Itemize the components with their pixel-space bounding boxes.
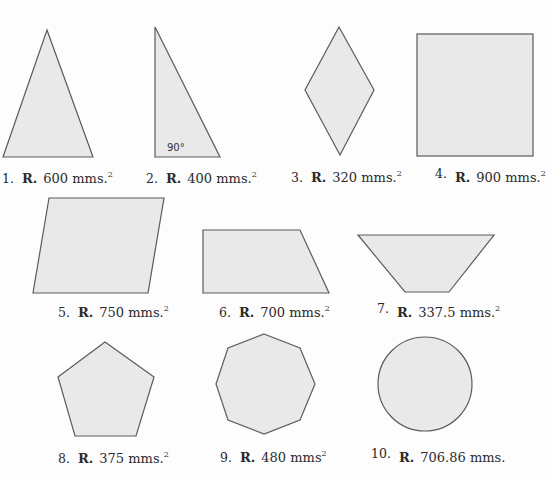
figure-number: 4. (435, 166, 447, 181)
answer-prefix: R. (78, 305, 93, 320)
answer-value: 320 (332, 170, 357, 185)
answer-unit: mms. (216, 171, 251, 186)
figure-number: 6. (219, 305, 231, 320)
figure-6-right-trapezoid (203, 230, 329, 293)
figure-number: 5. (58, 305, 70, 320)
figure-8-pentagon (58, 342, 154, 436)
figure-7-isosceles-trapezoid (358, 235, 494, 292)
answer-value: 375 (99, 451, 124, 466)
unit-exponent: 2 (108, 170, 113, 179)
answer-unit: mms. (289, 305, 324, 320)
figure-number: 9. (220, 450, 232, 465)
figure-10-circle (378, 337, 472, 431)
unit-exponent: 2 (252, 170, 257, 179)
answer-prefix: R. (311, 170, 326, 185)
figure-9-octagon (216, 334, 315, 434)
answer-prefix: R. (455, 170, 470, 185)
answer-prefix: R. (166, 171, 181, 186)
answer-label-3: 3.R.320 mms.2 (291, 166, 402, 186)
figure-number: 10. (371, 446, 391, 461)
unit-exponent: 2 (495, 304, 500, 313)
figure-3-rhombus (305, 27, 374, 155)
answer-prefix: R. (22, 171, 37, 186)
figure-number: 8. (58, 451, 70, 466)
answer-value: 750 (99, 305, 124, 320)
answer-unit: mms. (128, 451, 163, 466)
answer-unit: mms. (361, 170, 396, 185)
figure-5-parallelogram (33, 198, 164, 293)
answer-value: 600 (43, 171, 68, 186)
answer-label-4: 4.R.900 mms.2 (435, 166, 546, 186)
answer-prefix: R. (78, 451, 93, 466)
unit-exponent: 2 (397, 169, 402, 178)
answer-label-7: 7.R.337.5 mms.2 (377, 301, 500, 321)
figure-number: 3. (291, 170, 303, 185)
answer-value: 400 (187, 171, 212, 186)
answer-label-8: 8.R.375 mms.2 (58, 447, 169, 467)
unit-exponent: 2 (164, 450, 169, 459)
answer-unit: mms (290, 450, 321, 465)
right-angle-label: 90° (167, 142, 185, 153)
unit-exponent: 2 (322, 449, 327, 458)
figure-1-isosceles-triangle (3, 30, 93, 157)
answer-prefix: R. (399, 450, 414, 465)
answer-unit: mms. (470, 450, 505, 465)
answer-label-2: 2.R.400 mms.2 (146, 167, 257, 187)
unit-exponent: 2 (325, 304, 330, 313)
figure-number: 1. (2, 171, 14, 186)
unit-exponent: 2 (541, 169, 546, 178)
answer-unit: mms. (128, 305, 163, 320)
answer-unit: mms. (505, 170, 540, 185)
answer-prefix: R. (239, 305, 254, 320)
figure-number: 7. (377, 301, 389, 316)
answer-prefix: R. (240, 450, 255, 465)
figure-2-right-triangle (155, 27, 220, 157)
answer-label-9: 9.R.480 mms2 (220, 446, 327, 466)
unit-exponent: 2 (164, 304, 169, 313)
answer-label-10: 10.R.706.86 mms. (371, 446, 505, 466)
answer-value: 700 (260, 305, 285, 320)
answer-label-6: 6.R.700 mms.2 (219, 301, 330, 321)
answer-value: 337.5 (418, 305, 455, 320)
answer-prefix: R. (397, 305, 412, 320)
answer-value: 480 (261, 450, 286, 465)
answer-value: 706.86 (420, 450, 466, 465)
answer-value: 900 (476, 170, 501, 185)
figure-number: 2. (146, 171, 158, 186)
answer-label-5: 5.R.750 mms.2 (58, 301, 169, 321)
answer-label-1: 1.R.600 mms.2 (2, 167, 113, 187)
answer-unit: mms. (460, 305, 495, 320)
answer-unit: mms. (72, 171, 107, 186)
figure-4-square (417, 34, 533, 156)
